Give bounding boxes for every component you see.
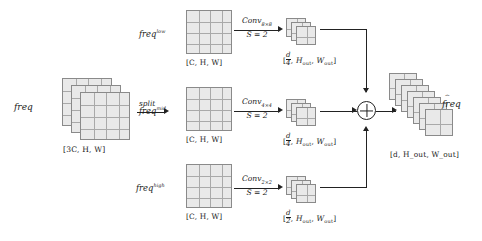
branch-mid-featuremap [186, 87, 232, 131]
branch-low-out-plane-1 [296, 26, 316, 45]
output-shape: [d, H_out, W_out] [390, 150, 459, 159]
branch-mid-out-plane-1 [296, 107, 316, 126]
route-low-arrowhead [363, 88, 369, 93]
route-low-horizontal [320, 29, 367, 30]
route-high-horizontal [320, 187, 367, 188]
branch-high-output-shape: [d2, Hout, Wout] [283, 208, 336, 224]
branch-low-stride-label: S = 2 [236, 29, 278, 39]
branch-mid-output-shape: [d4, Hout, Wout] [283, 131, 336, 147]
output-label: freq [442, 99, 461, 109]
branch-high-conv-label: Conv2×2 [236, 174, 278, 185]
route-high-vertical [366, 129, 367, 187]
branch-low-conv-arrowhead [278, 26, 283, 32]
branch-low-conv-label: Conv8×8 [236, 16, 278, 27]
output-plane-1 [425, 109, 453, 136]
branch-high-featuremap [186, 164, 232, 208]
branch-mid-stride-label: S = 2 [236, 110, 278, 120]
elementwise-sum-node [357, 101, 376, 120]
input-plane-1 [80, 92, 130, 140]
branch-mid-shape: [C, H, W] [186, 135, 222, 144]
branch-high-label: freqhigh [136, 182, 165, 193]
low-frac-den: 4 [286, 59, 291, 67]
branch-mid-conv-label: Conv4×4 [236, 97, 278, 108]
frequency-split-conv-diagram: freq [3C, H, W] split freqlow [C, H, W] … [0, 0, 482, 241]
high-frac-num: d [286, 210, 291, 217]
branch-mid-conv-arrowhead [278, 107, 283, 113]
branch-low-featuremap [186, 10, 232, 54]
high-frac-den: 2 [286, 217, 291, 225]
branch-high-conv-arrowhead [278, 184, 283, 190]
branch-mid-label: freqmid [139, 105, 166, 116]
sum-plus-horizontal [360, 110, 373, 111]
low-frac-num: d [286, 52, 291, 59]
branch-high-shape: [C, H, W] [186, 212, 222, 221]
input-shape: [3C, H, W] [63, 145, 105, 154]
branch-high-out-plane-1 [296, 184, 316, 203]
branch-low-shape: [C, H, W] [186, 58, 222, 67]
mid-frac-num: d [286, 133, 291, 140]
branch-low-output-shape: [d4, Hout, Wout] [283, 50, 336, 66]
mid-frac-den: 4 [286, 140, 291, 148]
route-output-arrowhead [392, 107, 397, 113]
branch-high-stride-label: S = 2 [236, 187, 278, 197]
input-label: freq [14, 102, 33, 112]
output-label-hat: ⌢ [445, 91, 450, 99]
route-high-arrowhead [363, 126, 369, 131]
branch-low-label: freqlow [139, 28, 165, 39]
route-low-vertical [366, 29, 367, 92]
